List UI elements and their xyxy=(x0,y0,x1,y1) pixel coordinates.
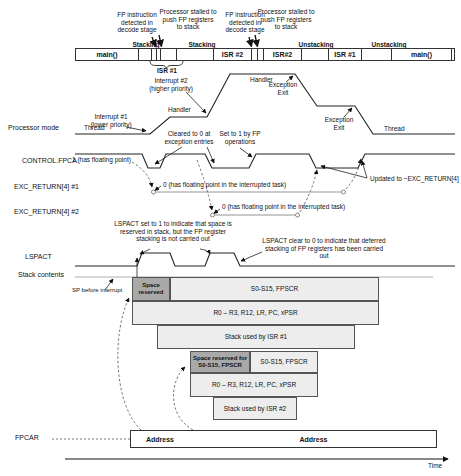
note-lspact-set: LSPACT set to 1 to indicate that space i… xyxy=(112,220,234,243)
stack-frame1-core-regs: R0 – R3, R12, LR, PC, xPSR xyxy=(132,301,379,325)
stack-frame2-fp-regs: S0-S15, FPSCR xyxy=(250,351,318,373)
label-exc-return1-value: 0 (has floating point in the interrupted… xyxy=(163,181,286,189)
stack-frame1-fp-regs: S0-S15, FPSCR xyxy=(170,277,379,301)
control-fpca-waveform xyxy=(75,154,455,168)
stack-frame2-core-regs: R0 – R3, R12, LR, PC, xPSR xyxy=(190,373,318,397)
bar-cell-main-2: main() xyxy=(391,49,451,60)
time-axis-label: Time xyxy=(428,462,442,470)
row-label-processor-mode: Processor mode xyxy=(8,124,59,131)
note-lspact-clear: LSPACT clear to 0 to indicate that defer… xyxy=(260,237,388,260)
note-updated-exc-return: Updated to ~EXC_RETURN[4] xyxy=(370,175,459,183)
note-fp-detect-1: FP instruction detected in decode stage xyxy=(110,11,164,34)
bar-cell-isr1: ISR #1 xyxy=(328,49,361,60)
bar-cell xyxy=(301,49,328,60)
row-label-fpcar: FPCAR xyxy=(15,434,39,441)
row-label-lspact: LSPACT xyxy=(25,253,52,260)
row-label-exc-return-1: EXC_RETURN[4] #1 xyxy=(14,183,79,190)
fpcar-address-1: Address xyxy=(130,430,190,448)
execution-timeline-bar: main() ISR #2 ISR#2 ISR #1 main() xyxy=(75,48,455,61)
note-set-to-1: Set to 1 by FP operations xyxy=(218,130,262,145)
label-isr1-brace: ISR #1 xyxy=(149,67,185,75)
stack-frame1-isr-stack: Stack used by ISR #1 xyxy=(157,325,355,349)
note-cleared-to-0: Cleared to 0 at exception entries xyxy=(160,130,218,145)
exc-return2-line xyxy=(211,213,300,217)
bar-cell xyxy=(176,49,213,60)
bar-cell xyxy=(138,49,151,60)
bar-cell-main-1: main() xyxy=(76,49,138,60)
note-interrupt1: Interrupt #1 (lower priority) xyxy=(88,113,134,128)
stack-frame2-isr-stack: Stack used by ISR #2 xyxy=(213,397,297,420)
bar-cell-isr2-b: ISR#2 xyxy=(263,49,301,60)
label-handler-mid: Handler xyxy=(168,106,191,114)
bar-cell xyxy=(451,49,456,60)
note-exception-exit-1: Exception Exit xyxy=(266,81,300,96)
note-exception-exit-2: Exception Exit xyxy=(322,116,356,131)
bar-cell-isr2-a: ISR #2 xyxy=(213,49,251,60)
exc-return1-line xyxy=(152,190,346,194)
stack-frame2-space-reserved: Space reserved for S0-S15, FPSCR xyxy=(190,351,250,373)
note-stall-2: Processor stalled to push FP registers t… xyxy=(257,8,315,31)
lazy-stacking-diagram: FP instruction detected in decode stage … xyxy=(0,0,461,476)
label-exc-return2-value: 0 (has floating point in the interrupted… xyxy=(222,203,345,211)
label-fpca-value: 1 (has floating point) xyxy=(72,156,131,164)
stack-frame1-space-reserved: Space reserved xyxy=(132,277,170,301)
note-interrupt2: Interrupt #2 (higher priority) xyxy=(148,77,194,92)
note-stall-1: Processor stalled to push FP registers t… xyxy=(159,8,217,31)
row-label-control-fpca: CONTROL.FPCA xyxy=(22,157,77,164)
row-label-exc-return-2: EXC_RETURN[4] #2 xyxy=(14,208,79,215)
label-thread-right: Thread xyxy=(384,125,405,133)
row-label-stack-contents: Stack contents xyxy=(18,271,64,278)
bar-cell xyxy=(160,49,176,60)
bar-cell xyxy=(361,49,391,60)
fpcar-address-2: Address xyxy=(190,430,437,448)
label-sp-before-interrupt: SP before interrupt xyxy=(72,287,122,293)
